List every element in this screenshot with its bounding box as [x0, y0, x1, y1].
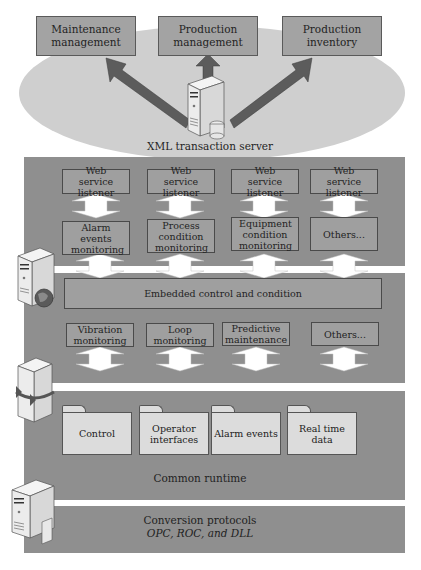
folder-body: Operator interfaces: [139, 412, 209, 455]
alarm-events-monitoring-label: Alarm events monitoring: [71, 222, 121, 255]
predictive-maintenance-box: Predictive maintenance: [222, 322, 290, 346]
conversion-protocols-title: Conversion protocols: [100, 514, 300, 527]
alarm-events-monitoring-box: Alarm events monitoring: [62, 221, 130, 255]
folder-real-time-data: Real time data: [287, 405, 357, 455]
others-condition-box: Others...: [311, 322, 379, 346]
web-service-listener-label: Web service listener: [155, 165, 207, 198]
folder-control-label: Control: [79, 428, 115, 439]
folder-body: Control: [62, 412, 132, 455]
process-condition-monitoring-label: Process condition monitoring: [155, 220, 207, 253]
web-service-listener-label: Web service listener: [318, 165, 370, 198]
web-service-listener-label: Web service listener: [70, 165, 122, 198]
loop-monitoring-box: Loop monitoring: [146, 323, 214, 347]
embedded-control-label: Embedded control and condition: [144, 288, 302, 299]
server-document-icon: [10, 478, 62, 548]
web-service-listener-1: Web service listener: [62, 169, 130, 194]
folder-alarm-events: Alarm events: [211, 405, 281, 455]
server-sync-icon: [14, 356, 58, 426]
others-condition-label: Others...: [324, 329, 366, 340]
web-service-listener-3: Web service listener: [231, 169, 299, 194]
folder-body: Real time data: [287, 412, 357, 455]
folder-control: Control: [62, 405, 132, 455]
others-monitoring-label: Others...: [323, 229, 365, 240]
equipment-condition-monitoring-label: Equipment condition monitoring: [239, 218, 291, 251]
common-runtime-label: Common runtime: [100, 472, 300, 485]
server-globe-icon: [14, 246, 64, 312]
others-monitoring-box: Others...: [310, 217, 378, 251]
vibration-monitoring-label: Vibration monitoring: [70, 324, 130, 346]
web-service-listener-label: Web service listener: [239, 165, 291, 198]
process-condition-monitoring-box: Process condition monitoring: [147, 219, 215, 253]
predictive-maintenance-label: Predictive maintenance: [225, 323, 287, 345]
loop-monitoring-label: Loop monitoring: [153, 324, 208, 346]
folder-alarm-events-label: Alarm events: [214, 428, 278, 439]
vibration-monitoring-box: Vibration monitoring: [66, 323, 134, 347]
web-service-listener-4: Web service listener: [310, 169, 378, 194]
equipment-condition-monitoring-box: Equipment condition monitoring: [231, 217, 299, 251]
conversion-protocols-subtitle: OPC, ROC, and DLL: [100, 527, 300, 540]
folder-operator-interfaces-label: Operator interfaces: [150, 423, 198, 445]
folder-body: Alarm events: [211, 412, 281, 455]
folder-real-time-data-label: Real time data: [288, 423, 356, 445]
folder-operator-interfaces: Operator interfaces: [139, 405, 209, 455]
web-service-listener-2: Web service listener: [147, 169, 215, 194]
embedded-control-box: Embedded control and condition: [64, 278, 382, 309]
